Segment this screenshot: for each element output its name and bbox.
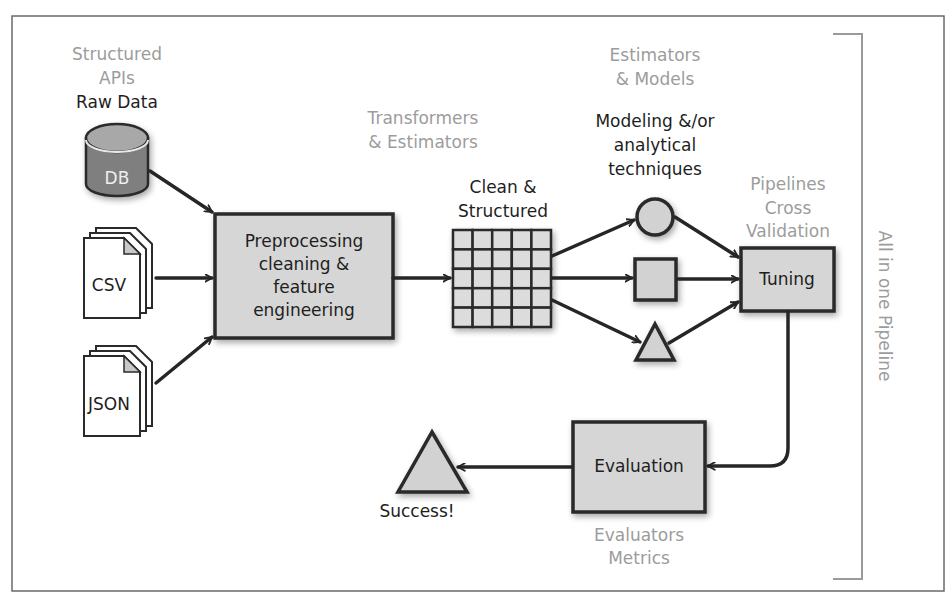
success-triangle-icon xyxy=(398,432,467,492)
tuning-caption-line-1: Pipelines xyxy=(750,174,826,194)
preprocessing-line-4: engineering xyxy=(253,300,355,320)
model-circle-icon xyxy=(637,199,673,235)
tuning-caption-line-3: Validation xyxy=(746,221,830,241)
models-gray-line-2: & Models xyxy=(616,69,695,89)
arrow-grid-to-circle xyxy=(552,220,634,256)
csv-label: CSV xyxy=(92,275,127,295)
structured-data-grid-icon xyxy=(453,230,551,327)
models-dark-line-3: techniques xyxy=(608,159,702,179)
evaluation-caption-line-2: Metrics xyxy=(608,548,670,568)
sources-gray-line-1: Structured xyxy=(72,44,162,64)
models-dark-line-1: Modeling &/or xyxy=(595,111,714,131)
tuning-label: Tuning xyxy=(758,269,815,289)
arrow-triangle-to-tuning xyxy=(669,302,738,343)
json-label: JSON xyxy=(87,394,130,414)
models-dark-line-2: analytical xyxy=(614,135,696,155)
transformers-line-1: Transformers xyxy=(367,108,479,128)
pipeline-bracket xyxy=(833,34,862,579)
db-label: DB xyxy=(105,168,130,188)
preprocessing-line-2: cleaning & xyxy=(259,254,350,274)
arrow-json-to-preprocessing xyxy=(156,337,212,383)
preprocessing-line-1: Preprocessing xyxy=(245,231,364,251)
sources-dark-label: Raw Data xyxy=(76,92,158,112)
tuning-caption-line-2: Cross xyxy=(765,198,812,218)
transformers-line-2: & Estimators xyxy=(368,132,478,152)
json-document-stack-icon xyxy=(84,346,152,436)
pipeline-label: All in one Pipeline xyxy=(875,231,895,382)
evaluation-label: Evaluation xyxy=(594,456,684,476)
sources-gray-line-2: APIs xyxy=(99,68,135,88)
preprocessing-line-3: feature xyxy=(273,277,334,297)
models-gray-line-1: Estimators xyxy=(610,45,701,65)
arrow-tuning-to-evaluation xyxy=(708,312,788,466)
csv-document-stack-icon xyxy=(84,228,152,318)
success-label: Success! xyxy=(379,501,454,521)
arrow-grid-to-triangle xyxy=(552,300,640,342)
evaluation-caption-line-1: Evaluators xyxy=(594,525,684,545)
model-square-icon xyxy=(635,259,676,300)
arrow-circle-to-tuning xyxy=(675,217,738,257)
arrow-db-to-preprocessing xyxy=(150,171,212,212)
pipeline-diagram: All in one Pipeline Structured APIs Raw … xyxy=(0,0,952,602)
clean-label-line-2: Structured xyxy=(458,201,548,221)
clean-label-line-1: Clean & xyxy=(470,177,537,197)
